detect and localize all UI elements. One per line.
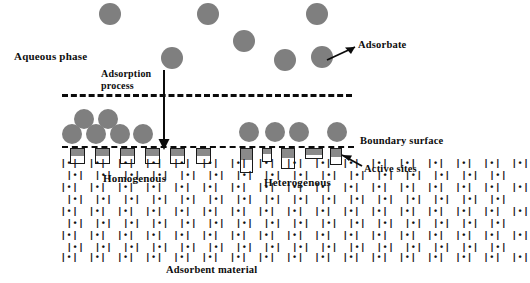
- active-site-row: |•| |•| |•| |•| |•| |•| |•| |•| |•| |•| …: [62, 206, 530, 216]
- label-adsorbent-material: Adsorbent material: [166, 264, 257, 276]
- adsorbate-particle: [306, 3, 328, 25]
- adsorbed-particle: [86, 124, 106, 144]
- label-boundary-surface: Boundary surface: [360, 135, 443, 147]
- adsorbate-particle: [274, 49, 296, 71]
- adsorbate-particle-labeled: [311, 46, 333, 68]
- active-site-row: |•| |•| |•| |•| |•| |•| |•| |•| |•| |•| …: [62, 230, 530, 240]
- active-site-row: |•| |•| |•| |•| |•| |•| |•| |•| |•| |•| …: [68, 218, 508, 228]
- adsorbed-particle: [289, 122, 309, 142]
- label-aqueous-phase: Aqueous phase: [14, 50, 87, 62]
- adsorbate-particle-adsorbing: [161, 47, 183, 69]
- active-site-row: |•| |•| |•| |•| |•| |•| |•| |•| |•| |•| …: [68, 194, 508, 204]
- label-adsorption-process-line1: Adsorption: [101, 68, 151, 79]
- active-site-row: |•| |•| |•| |•| |•| |•| |•| |•| |•| |•| …: [62, 252, 530, 262]
- active-site-row: |•| |•| |•| |•| |•| |•| |•| |•| |•| |•| …: [62, 182, 530, 192]
- adsorbed-particle: [62, 124, 82, 144]
- adsorbed-particle: [239, 122, 259, 142]
- label-adsorbate: Adsorbate: [358, 39, 406, 51]
- adsorbed-particle: [133, 124, 153, 144]
- adsorbate-particle: [233, 30, 255, 52]
- active-site-row: |•| |•| |•| |•| |•| |•| |•| |•| |•| |•| …: [68, 170, 508, 180]
- adsorbate-particle: [197, 3, 219, 25]
- active-site-row: |•| |•| |•| |•| |•| |•| |•| |•| |•| |•| …: [62, 158, 530, 168]
- adsorbed-particle: [110, 124, 130, 144]
- active-site-row: |•| |•| |•| |•| |•| |•| |•| |•| |•| |•| …: [68, 242, 508, 252]
- adsorbed-particle: [327, 122, 347, 142]
- adsorbate-particle: [99, 3, 121, 25]
- aqueous-phase-divider: [62, 94, 352, 97]
- label-adsorption-process-line2: process: [101, 80, 134, 91]
- adsorption-process-arrow-shaft: [163, 70, 165, 144]
- adsorbed-particle: [265, 122, 285, 142]
